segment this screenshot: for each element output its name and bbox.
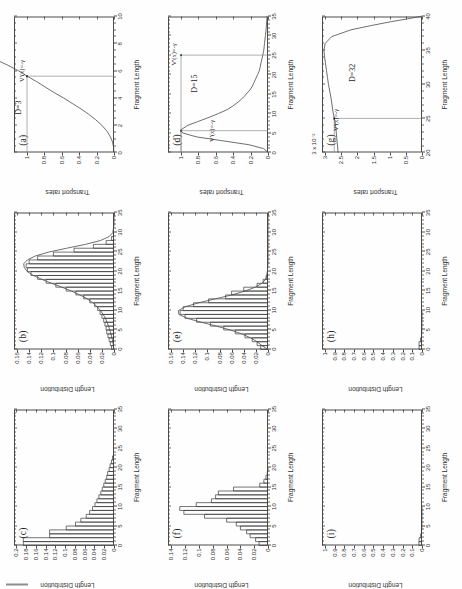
marker-guide-line xyxy=(181,55,268,152)
y-tick-label: 0 xyxy=(419,352,425,355)
x-minor-tick xyxy=(268,31,270,32)
x-minor-tick xyxy=(114,435,116,436)
x-minor-tick xyxy=(422,324,424,325)
x-minor-tick xyxy=(268,128,270,129)
x-minor-tick xyxy=(268,19,270,20)
data-layer-b xyxy=(14,212,114,348)
y-tick-label: 0 xyxy=(111,155,117,158)
y-tick-label: 0.02 xyxy=(251,548,257,560)
plot-h: (h)00.10.20.30.40.50.60.70.80.9105101520… xyxy=(322,212,422,348)
data-layer-h xyxy=(322,212,422,348)
x-minor-tick xyxy=(268,58,270,59)
y-tick-label: 0.02 xyxy=(253,352,259,364)
x-tick-label: 5 xyxy=(271,328,277,331)
x-minor-tick xyxy=(422,219,424,220)
x-minor-tick xyxy=(422,235,424,236)
x-tick-label: 8 xyxy=(117,42,123,45)
x-minor-tick xyxy=(114,536,116,537)
x-minor-tick xyxy=(422,493,424,494)
x-tick-label: 10 xyxy=(271,110,277,117)
x-minor-tick xyxy=(268,285,270,286)
x-minor-tick xyxy=(268,81,270,82)
x-tick-label: 25 xyxy=(117,444,123,451)
x-minor-tick xyxy=(422,458,424,459)
x-tick-label: 15 xyxy=(425,287,431,294)
x-minor-tick xyxy=(114,297,116,298)
annotation-d-1: V'(x)=-γ xyxy=(208,119,215,141)
x-minor-tick xyxy=(114,239,116,240)
y-axis-title: Length Distribution xyxy=(162,385,282,392)
x-minor-tick xyxy=(268,97,270,98)
x-minor-tick xyxy=(268,266,270,267)
x-minor-tick xyxy=(268,435,270,436)
x-axis-title: Fragment Length xyxy=(287,409,294,545)
y-tick-label: 0.02 xyxy=(101,548,107,560)
x-tick-label: 10 xyxy=(271,306,277,313)
y-tick-label: 0.14 xyxy=(43,548,49,560)
x-minor-tick xyxy=(268,497,270,498)
x-minor-tick xyxy=(268,62,270,63)
x-minor-tick xyxy=(268,109,270,110)
y-axis-title: Length Distribution xyxy=(162,582,282,589)
plot-e: (e)00.020.040.060.080.10.120.140.1605101… xyxy=(168,212,268,348)
y-tick-label: 0.6 xyxy=(361,548,367,556)
y-tick-label: 0.1 xyxy=(196,548,202,556)
y-tick-label: 0.6 xyxy=(213,155,219,163)
x-minor-tick xyxy=(422,462,424,463)
y-axis-title: Length Distribution xyxy=(316,582,436,589)
panel-cell-e: (e)00.020.040.060.080.10.120.140.1605101… xyxy=(154,196,308,392)
x-minor-tick xyxy=(268,474,270,475)
x-minor-tick xyxy=(114,145,116,146)
y-tick-label: 0.14 xyxy=(180,352,186,364)
x-tick-label: 20 xyxy=(271,464,277,471)
marker-dot xyxy=(180,54,182,56)
x-minor-tick xyxy=(268,144,270,145)
x-minor-tick xyxy=(268,89,270,90)
x-minor-tick xyxy=(268,66,270,67)
panel-cell-g: (g)00.511.522.532025303540Transport rate… xyxy=(308,0,462,196)
x-minor-tick xyxy=(268,536,270,537)
x-tick-label: 40 xyxy=(425,13,431,20)
x-minor-tick xyxy=(422,63,424,64)
plot-b: (b)00.020.040.060.080.10.120.140.1605101… xyxy=(14,212,114,348)
x-minor-tick xyxy=(268,415,270,416)
x-minor-tick xyxy=(422,489,424,490)
x-tick-label: 10 xyxy=(117,13,123,20)
x-minor-tick xyxy=(268,528,270,529)
y-tick-label: 0.5 xyxy=(370,548,376,556)
y-tick-label: 0.02 xyxy=(99,352,105,364)
x-minor-tick xyxy=(114,293,116,294)
x-tick-label: 5 xyxy=(425,328,431,331)
x-minor-tick xyxy=(268,120,270,121)
x-minor-tick xyxy=(422,415,424,416)
x-minor-tick xyxy=(268,423,270,424)
x-minor-tick xyxy=(114,49,116,50)
x-minor-tick xyxy=(422,293,424,294)
x-tick-label: 35 xyxy=(271,209,277,216)
x-minor-tick xyxy=(268,301,270,302)
x-tick-label: 30 xyxy=(271,228,277,235)
x-axis-title: Fragment Length xyxy=(133,16,140,152)
x-minor-tick xyxy=(422,521,424,522)
y-tick-label: 0.6 xyxy=(361,352,367,360)
x-minor-tick xyxy=(114,482,116,483)
x-minor-tick xyxy=(422,344,424,345)
y-axis-title: Transport rates xyxy=(162,189,282,196)
x-minor-tick xyxy=(422,278,424,279)
x-minor-tick xyxy=(422,301,424,302)
annotation-a-0: D=3 xyxy=(14,100,23,114)
x-tick-label: 25 xyxy=(271,248,277,255)
y-tick-label: 0.1 xyxy=(50,352,56,360)
plot-g: (g)00.511.522.532025303540Transport rate… xyxy=(322,16,422,152)
marker-guide-line xyxy=(27,76,114,152)
x-minor-tick xyxy=(114,22,116,23)
y-tick-label: 0.8 xyxy=(341,548,347,556)
transport-rate-curve xyxy=(324,16,422,152)
y-tick-label: 0.1 xyxy=(62,548,68,556)
x-tick-label: 20 xyxy=(425,464,431,471)
x-minor-tick xyxy=(268,509,270,510)
x-minor-tick xyxy=(422,22,424,23)
x-minor-tick xyxy=(268,439,270,440)
x-minor-tick xyxy=(268,482,270,483)
x-axis-title: Fragment Length xyxy=(287,16,294,152)
